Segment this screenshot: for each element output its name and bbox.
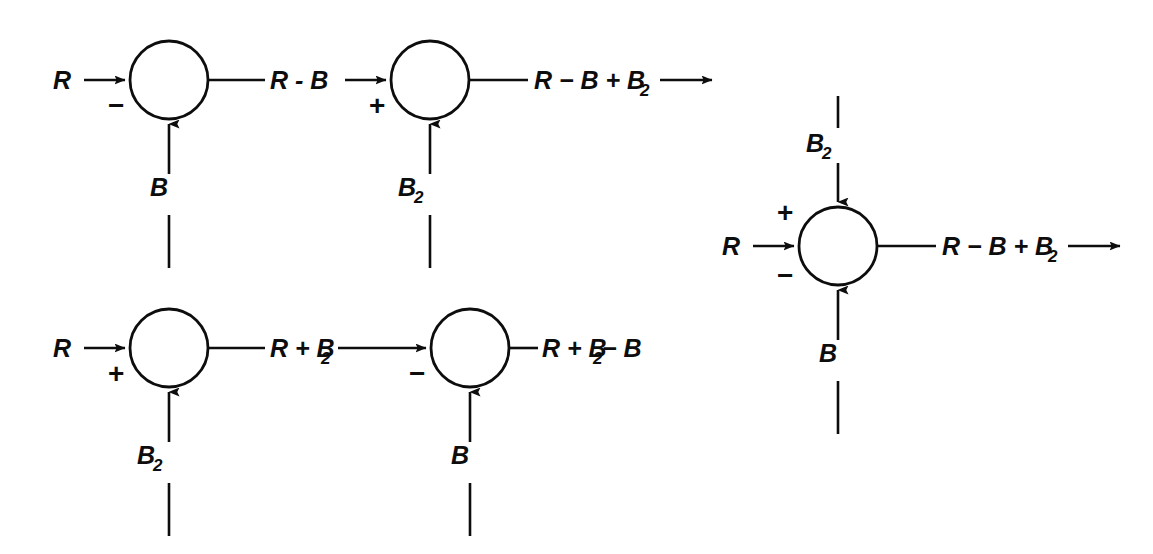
label-r-j1: R [53,66,71,94]
summing-junction-circle[interactable] [431,309,509,387]
summing-junction-circle[interactable] [130,41,208,119]
sign-plus-j2: + [369,90,385,121]
label-b-j1: B [150,173,168,201]
sign-minus-j1: − [108,90,124,121]
label-r-minus-b-plus-b2: R − B + B [534,66,645,94]
label-b2-j5-subscript: 2 [821,144,832,163]
sign-minus-j5: − [777,260,793,291]
diagram-right-single: B 2 + R − B R − B + B 2 [722,96,1120,434]
summing-junction-circle[interactable] [799,207,877,285]
summing-junction-2[interactable] [391,41,469,119]
sign-plus-j3: + [108,358,124,389]
label-output-r-minus-b-plus-b2: R − B + B [942,232,1053,260]
summing-junction-circle[interactable] [130,309,208,387]
label-r-minus-b: R - B [270,66,328,94]
sign-plus-j5: + [777,197,793,228]
summing-junction-circle[interactable] [391,41,469,119]
summing-junction-3[interactable] [130,309,208,387]
label-r-minus-b-plus-b2-subscript: 2 [639,81,650,100]
summing-junction-1[interactable] [130,41,208,119]
label-b2-j2-subscript: 2 [413,188,424,207]
label-output-subscript: 2 [1047,247,1058,266]
diagram-bottom-left-cascade: R + B 2 R + B 2 − B R + B 2 − B [53,309,642,536]
label-r-plus-b2-subscript: 2 [320,349,331,368]
summing-junction-5[interactable] [799,207,877,285]
diagram-top-left-cascade: R − B R - B + B 2 R − B + B 2 [53,41,712,268]
sign-minus-j4: − [409,358,425,389]
summing-junction-4[interactable] [431,309,509,387]
label-b-j5: B [819,339,837,367]
label-r-j3: R [53,334,71,362]
label-b2-j3-subscript: 2 [152,456,163,475]
block-diagram-canvas: R − B R - B + B 2 R − B + B 2 [0,0,1153,554]
label-b-j4: B [451,441,469,469]
label-r-plus-b2-minus-b-tail: − B [602,334,642,362]
block-diagram-figure: R − B R - B + B 2 R − B + B 2 [0,0,1153,554]
label-r-j5: R [722,232,740,260]
